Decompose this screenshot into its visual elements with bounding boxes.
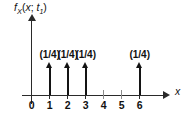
x-tick-label-3: 3 (79, 100, 93, 111)
y-axis-label-close-paren: ) (43, 1, 47, 13)
impulse-arrowhead-icon-x2 (64, 62, 70, 68)
x-tick-label-6: 6 (133, 100, 147, 111)
x-tick-label-0: 0 (25, 100, 39, 111)
y-axis-label-semicolon: ; (31, 1, 34, 13)
impulse-arrowhead-icon-x6 (136, 62, 142, 68)
x-axis-line (22, 95, 164, 96)
x-tick-label-2: 2 (61, 100, 75, 111)
impulse-stem-x1 (49, 66, 51, 95)
impulse-density-figure: fX(x; t1) x 0123456 (1/4)(1/4)(1/4)(1/4) (0, 0, 191, 132)
x-tick-label-5: 5 (115, 100, 129, 111)
impulse-stem-x3 (85, 66, 87, 95)
x-axis-arrowhead-icon (163, 91, 170, 99)
impulse-arrowhead-icon-x3 (82, 62, 88, 68)
y-axis-line (31, 21, 32, 104)
x-axis-tick-5 (121, 90, 122, 99)
x-tick-label-1: 1 (43, 100, 57, 111)
x-tick-label-4: 4 (97, 100, 111, 111)
x-axis-label: x (175, 86, 180, 97)
y-axis-arrowhead-icon (28, 14, 36, 21)
impulse-weight-label-x6: (1/4) (123, 50, 157, 60)
impulse-weight-label-x3: (1/4) (69, 50, 103, 60)
impulse-stem-x2 (67, 66, 69, 95)
impulse-stem-x6 (139, 66, 141, 95)
impulse-arrowhead-icon-x1 (46, 62, 52, 68)
x-axis-tick-4 (103, 90, 104, 99)
